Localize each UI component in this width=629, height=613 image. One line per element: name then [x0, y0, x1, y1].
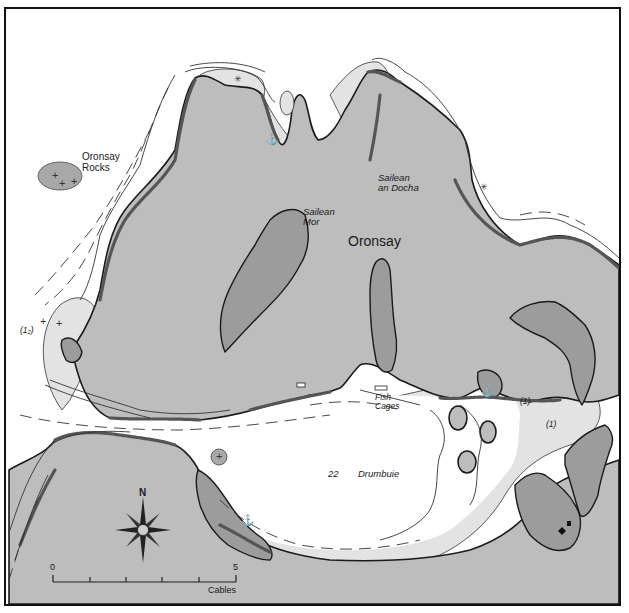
label-sailean-an-docha-line2: an Docha [378, 183, 419, 193]
anchorage-icon: ⚓ [481, 386, 495, 397]
fish-cage-marker [375, 386, 387, 390]
anchorage-icon: ⚓ [265, 134, 279, 145]
scale-end-label: 5 [233, 563, 238, 572]
rock-awash-icon: + [71, 176, 77, 187]
label-oronsay-rocks-line2: Rocks [82, 163, 120, 174]
rock-awash-icon: + [52, 170, 58, 181]
label-drying-height-west: (1₂) [20, 326, 34, 335]
label-depth-22: 22 [328, 469, 339, 479]
label-fish-cages: Fish Cages [375, 393, 400, 411]
anchorage-icon: ⚓ [241, 515, 255, 526]
label-drying-height-east-2: (1) [546, 420, 556, 429]
rock-awash-icon: + [40, 316, 46, 327]
label-fish-cages-line2: Cages [375, 402, 400, 411]
rock-awash-icon: + [56, 318, 62, 329]
label-drumbuie: Drumbuie [358, 469, 399, 479]
label-drying-height-east-1: (1) [520, 397, 530, 406]
label-sailean-an-docha: Sailean an Docha [378, 173, 419, 193]
nautical-chart [0, 0, 629, 613]
scale-start-label: 0 [50, 563, 55, 572]
mooring-marker [297, 383, 305, 387]
rock-awash-icon: + [216, 451, 222, 462]
wreck-star-icon: ✳ [480, 183, 488, 192]
label-sailean-mor-line2: Mor [303, 217, 335, 227]
label-oronsay-rocks: Oronsay Rocks [82, 152, 120, 173]
wreck-star-icon: ✳ [234, 75, 242, 84]
label-sailean-mor: Sailean Mor [303, 207, 335, 227]
scale-unit-label: Cables [208, 586, 236, 595]
label-oronsay-rocks-line1: Oronsay [82, 152, 120, 163]
rock-awash-icon: + [59, 178, 65, 189]
label-island-oronsay: Oronsay [348, 234, 401, 249]
compass-north-label: N [139, 488, 146, 499]
